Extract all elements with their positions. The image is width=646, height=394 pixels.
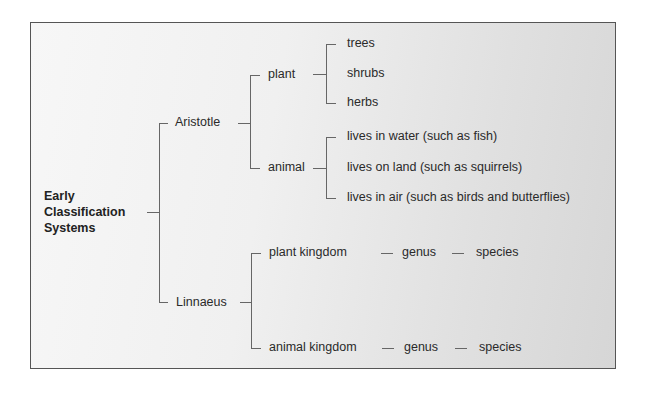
- node-plant-genus: genus: [402, 245, 436, 259]
- node-plant-species: species: [476, 245, 518, 259]
- connector: [313, 168, 326, 169]
- connector: [326, 137, 327, 199]
- branch-aristotle: Aristotle: [175, 115, 220, 129]
- node-plant-kingdom: plant kingdom: [269, 245, 347, 259]
- leaf-herbs: herbs: [347, 95, 378, 109]
- connector: [313, 74, 326, 75]
- connector: [251, 253, 261, 254]
- connector: [159, 302, 168, 303]
- connector: [250, 75, 251, 169]
- connector: [240, 302, 251, 303]
- connector: [159, 123, 168, 124]
- leaf-trees: trees: [347, 36, 375, 50]
- connector: [326, 137, 336, 138]
- connector: [452, 253, 464, 254]
- connector: [159, 123, 160, 302]
- leaf-water: lives in water (such as fish): [347, 129, 497, 143]
- connector: [326, 198, 336, 199]
- root-line-1: Early: [44, 188, 125, 204]
- branch-linnaeus: Linnaeus: [176, 295, 227, 309]
- node-animal: animal: [268, 160, 305, 174]
- node-plant: plant: [268, 67, 295, 81]
- connector: [381, 253, 393, 254]
- connector: [238, 123, 250, 124]
- root-line-2: Classification: [44, 204, 125, 220]
- root-label: Early Classification Systems: [44, 188, 125, 236]
- root-line-3: Systems: [44, 220, 125, 236]
- connector: [251, 348, 261, 349]
- connector: [382, 348, 394, 349]
- leaf-shrubs: shrubs: [347, 66, 385, 80]
- connector: [326, 44, 336, 45]
- connector: [147, 212, 159, 213]
- node-animal-species: species: [479, 340, 521, 354]
- node-animal-kingdom: animal kingdom: [269, 340, 357, 354]
- leaf-land: lives on land (such as squirrels): [347, 160, 522, 174]
- connector: [251, 253, 252, 349]
- connector: [250, 168, 260, 169]
- leaf-air: lives in air (such as birds and butterfl…: [347, 190, 570, 204]
- connector: [250, 75, 260, 76]
- connector: [326, 103, 336, 104]
- connector: [455, 348, 467, 349]
- connector: [326, 44, 327, 104]
- node-animal-genus: genus: [404, 340, 438, 354]
